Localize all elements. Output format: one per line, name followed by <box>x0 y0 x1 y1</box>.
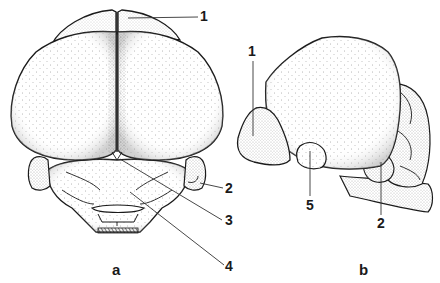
cerebral-hemispheres <box>11 12 223 160</box>
callout-a-1: 1 <box>200 9 208 23</box>
callout-b-1: 1 <box>248 44 256 58</box>
panel-a-dorsal-view <box>11 10 224 265</box>
callout-a-3: 3 <box>225 213 233 227</box>
panel-label-a: a <box>112 262 120 277</box>
callout-a-2: 2 <box>225 181 233 195</box>
callout-b-5: 5 <box>306 198 314 212</box>
callout-a-4: 4 <box>225 259 233 273</box>
panel-b-lateral-view <box>238 37 433 215</box>
brain-diagram <box>0 0 440 283</box>
cerebellum <box>48 159 188 233</box>
panel-label-b: b <box>359 262 368 277</box>
callout-b-2: 2 <box>377 216 385 230</box>
